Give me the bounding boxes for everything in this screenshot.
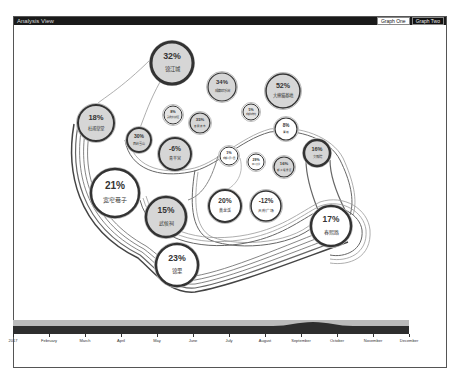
node-percent: -6% bbox=[169, 145, 181, 152]
axis-tick bbox=[337, 334, 338, 337]
graph-node[interactable]: 20%黄龙溪 bbox=[208, 189, 243, 224]
axis-label: May bbox=[153, 338, 161, 343]
axis-tick bbox=[409, 334, 410, 337]
node-percent: 52% bbox=[276, 82, 291, 90]
node-label: 春熙路 bbox=[324, 229, 339, 236]
axis-label: July bbox=[225, 338, 232, 343]
node-label: 杜甫草堂 bbox=[88, 125, 105, 132]
node-label: 锦里 bbox=[172, 267, 183, 275]
axis-tick bbox=[193, 334, 194, 337]
node-percent: 16% bbox=[311, 146, 322, 152]
node-label: 宽窄巷子 bbox=[103, 196, 127, 204]
graph-node[interactable]: 8%青城 bbox=[274, 117, 299, 142]
node-label: 天府广场 bbox=[258, 208, 274, 213]
node-percent: 29% bbox=[252, 158, 260, 162]
graph-node[interactable]: 16%都江堰景区 bbox=[273, 156, 296, 179]
axis-tick bbox=[13, 334, 14, 337]
axis-tick bbox=[49, 334, 50, 337]
node-label: 大熊猫基地 bbox=[273, 92, 294, 99]
axis-label: April bbox=[117, 338, 125, 343]
graph-node[interactable]: -12%天府广场 bbox=[250, 190, 283, 223]
axis-tick bbox=[121, 334, 122, 337]
node-label: 春熙夜市 bbox=[194, 124, 206, 128]
node-label: 黄龙溪 bbox=[219, 207, 231, 213]
node-label: 文殊院 bbox=[313, 154, 323, 159]
graph-node[interactable]: 23%锦里 bbox=[155, 243, 200, 288]
axis-label: June bbox=[189, 338, 198, 343]
axis-tick bbox=[157, 334, 158, 337]
graph-node[interactable]: 16%文殊院 bbox=[303, 139, 332, 168]
node-percent: 32% bbox=[163, 51, 181, 61]
timeline-axis: 2017FebruaryMarchAprilMayJuneJulyAugustS… bbox=[13, 334, 409, 346]
graph-node[interactable]: 5%成都博物馆 bbox=[242, 103, 261, 122]
node-percent: 20% bbox=[218, 197, 231, 204]
node-percent: 15% bbox=[158, 205, 175, 215]
node-percent: -12% bbox=[259, 197, 274, 204]
graph-node[interactable]: 21%宽窄巷子 bbox=[90, 168, 141, 219]
axis-tick bbox=[265, 334, 266, 337]
graph-node[interactable]: 32%锦江城 bbox=[150, 41, 195, 86]
axis-label: 2017 bbox=[9, 338, 18, 343]
node-percent: 8% bbox=[283, 123, 290, 128]
graph-node[interactable]: 35%春熙夜市 bbox=[189, 112, 212, 135]
graph-node[interactable]: 8%武侯文化街区 bbox=[163, 105, 184, 126]
axis-label: September bbox=[291, 338, 311, 343]
node-percent: 21% bbox=[105, 180, 125, 191]
node-percent: 17% bbox=[323, 214, 340, 224]
axis-label: December bbox=[400, 338, 418, 343]
axis-label: March bbox=[79, 338, 90, 343]
node-percent: 16% bbox=[280, 161, 289, 166]
graph-node[interactable]: 18%杜甫草堂 bbox=[77, 104, 116, 143]
graph-node[interactable]: 17%春熙路 bbox=[310, 205, 353, 248]
node-label: 武侯祠 bbox=[159, 220, 174, 227]
graph-node[interactable]: 30%西岭雪山 bbox=[126, 127, 153, 154]
node-label: 西岭雪山 bbox=[133, 141, 145, 146]
node-label: 成都欢乐谷 bbox=[215, 88, 231, 93]
graph-node[interactable]: -6%青羊宫 bbox=[158, 137, 193, 172]
node-percent: 8% bbox=[170, 110, 176, 114]
graph-node[interactable]: 15%武侯祠 bbox=[145, 196, 188, 239]
graph-node[interactable]: 52%大熊猫基地 bbox=[265, 73, 302, 110]
graph-node[interactable]: 1%成都人民公园 bbox=[219, 146, 240, 167]
node-percent: 5% bbox=[248, 108, 254, 112]
node-label: 锦江城 bbox=[165, 65, 181, 73]
axis-label: February bbox=[41, 338, 57, 343]
axis-label: October bbox=[330, 338, 344, 343]
node-percent: 34% bbox=[216, 79, 229, 85]
node-label: 青羊宫 bbox=[169, 155, 181, 161]
node-label: 都江堰景区 bbox=[277, 168, 292, 172]
axis-label: August bbox=[259, 338, 271, 343]
node-percent: 23% bbox=[168, 253, 186, 263]
axis-tick bbox=[85, 334, 86, 337]
axis-label: November bbox=[364, 338, 382, 343]
axis-tick bbox=[301, 334, 302, 337]
node-percent: 30% bbox=[134, 133, 145, 139]
axis-tick bbox=[373, 334, 374, 337]
timeline-area-chart[interactable] bbox=[13, 320, 409, 334]
node-percent: 35% bbox=[196, 117, 205, 122]
node-label: 青城 bbox=[283, 130, 289, 134]
graph-node[interactable]: 34%成都欢乐谷 bbox=[207, 72, 238, 103]
node-percent: 1% bbox=[226, 151, 232, 155]
node-percent: 18% bbox=[88, 113, 103, 122]
graph-node[interactable]: 29%四川大学 bbox=[247, 153, 266, 172]
axis-tick bbox=[229, 334, 230, 337]
